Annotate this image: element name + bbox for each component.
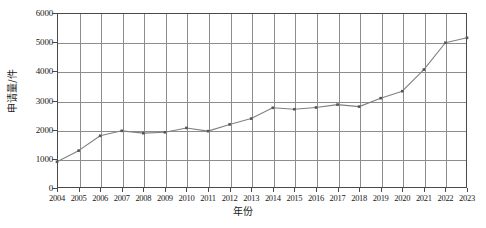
x-axis-tick-mark	[338, 188, 339, 192]
x-axis-tick-mark	[208, 188, 209, 192]
gridline-vertical	[360, 14, 361, 187]
x-axis-tick-mark	[122, 188, 123, 192]
x-axis-tick-mark	[402, 188, 403, 192]
gridline-vertical	[274, 14, 275, 187]
x-axis-tick-mark	[381, 188, 382, 192]
gridline-vertical	[317, 14, 318, 187]
x-axis-tick-mark	[424, 188, 425, 192]
y-axis-tick-label: 1000	[36, 155, 53, 164]
x-axis-tick-mark	[467, 188, 468, 192]
gridline-vertical	[295, 14, 296, 187]
gridline-vertical	[101, 14, 102, 187]
gridline-vertical	[144, 14, 145, 187]
gridline-vertical	[231, 14, 232, 187]
x-axis-tick-mark	[143, 188, 144, 192]
gridline-vertical	[425, 14, 426, 187]
gridline-vertical	[252, 14, 253, 187]
gridline-vertical	[339, 14, 340, 187]
x-axis-tick-mark	[165, 188, 166, 192]
gridline-vertical	[382, 14, 383, 187]
gridline-horizontal	[58, 43, 466, 44]
gridline-vertical	[166, 14, 167, 187]
x-axis-tick-mark	[316, 188, 317, 192]
gridline-vertical	[403, 14, 404, 187]
gridline-vertical	[123, 14, 124, 187]
gridline-horizontal	[58, 131, 466, 132]
x-axis-tick-mark	[79, 188, 80, 192]
x-axis-tick-mark	[100, 188, 101, 192]
gridline-vertical	[80, 14, 81, 187]
plot-area	[57, 13, 467, 188]
y-axis-tick-label: 2000	[36, 126, 53, 135]
chart-figure: 0100020003000400050006000 申请量/件 20042005…	[0, 0, 486, 228]
y-axis-label: 申请量/件	[8, 56, 18, 126]
x-axis-label: 年份	[0, 206, 486, 217]
x-axis-tick-mark	[445, 188, 446, 192]
x-axis-tick-label: 2023	[447, 193, 486, 203]
x-axis-tick-mark	[294, 188, 295, 192]
y-axis-tick-label: 6000	[36, 9, 53, 18]
gridline-horizontal	[58, 72, 466, 73]
gridline-horizontal	[58, 102, 466, 103]
x-axis-tick-mark	[57, 188, 58, 192]
gridline-vertical	[209, 14, 210, 187]
x-axis-tick-mark	[186, 188, 187, 192]
y-axis-tick-label: 5000	[36, 38, 53, 47]
x-axis-tick-mark	[273, 188, 274, 192]
x-axis-tick-mark	[359, 188, 360, 192]
y-axis-tick-label: 4000	[36, 67, 53, 76]
y-axis-tick-label: 3000	[36, 97, 53, 106]
x-axis-tick-mark	[230, 188, 231, 192]
gridline-horizontal	[58, 160, 466, 161]
gridline-vertical	[446, 14, 447, 187]
gridline-vertical	[187, 14, 188, 187]
x-axis-tick-mark	[251, 188, 252, 192]
